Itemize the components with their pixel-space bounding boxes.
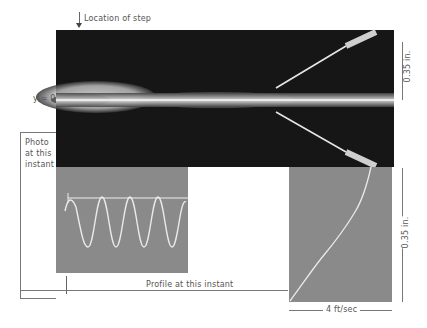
profile-callout-line (20, 290, 288, 291)
step-location-arrowhead (76, 23, 82, 28)
right-dimension-label: 0.35 in. (401, 217, 410, 249)
photo-label-line-2: at this (25, 149, 52, 158)
profile-curve (289, 167, 392, 302)
smoke-streak-image (56, 30, 394, 167)
oscilloscope-panel (56, 167, 188, 273)
oscilloscope-wave (56, 167, 188, 273)
profile-panel (289, 167, 392, 302)
main-photo (56, 30, 394, 167)
top-dimension-label: 0.35 in. (403, 51, 412, 83)
profile-arrow-up (66, 276, 67, 294)
bottom-dimension-label: 4 ft/sec (323, 305, 360, 314)
photo-label-line-3: instant (25, 160, 54, 169)
profile-label: Profile at this instant (146, 280, 233, 289)
y-zero-label: y = 0 (33, 94, 56, 103)
step-location-label: Location of step (84, 14, 151, 23)
photo-label-line-1: Photo (25, 138, 49, 147)
